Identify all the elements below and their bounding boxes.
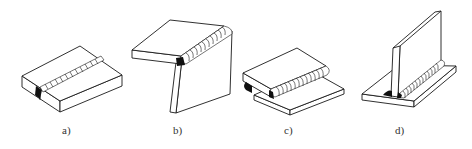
panel-label-c: c) <box>284 124 293 136</box>
panel-d-t-joint <box>362 11 456 107</box>
panel-label-b: b) <box>173 124 182 136</box>
panel-c-lap-joint <box>243 48 344 115</box>
plate-d-vertical-edge <box>391 46 400 97</box>
panel-b-corner-joint <box>132 20 232 113</box>
panel-label-d: d) <box>395 124 404 136</box>
panel-label-a: a) <box>62 124 71 136</box>
panel-a-butt-joint <box>22 46 122 112</box>
